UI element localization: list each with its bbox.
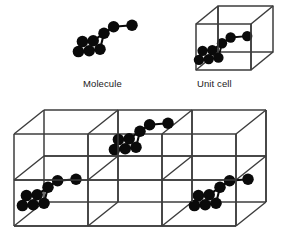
molecule-glyph bbox=[73, 19, 138, 57]
lattice-panel bbox=[14, 110, 266, 226]
crystal-structure-figure: Molecule Unit cell bbox=[0, 0, 292, 235]
molecule-panel bbox=[73, 19, 138, 57]
lattice-molecule-bottom-left bbox=[17, 173, 82, 211]
unit-cell-label: Unit cell bbox=[197, 78, 232, 89]
molecule-label: Molecule bbox=[83, 78, 122, 89]
figure-canvas bbox=[0, 0, 292, 235]
unit-cell-molecule bbox=[194, 31, 253, 65]
unit-cell-panel bbox=[194, 6, 273, 70]
lattice-molecule-bottom-right bbox=[189, 173, 254, 211]
